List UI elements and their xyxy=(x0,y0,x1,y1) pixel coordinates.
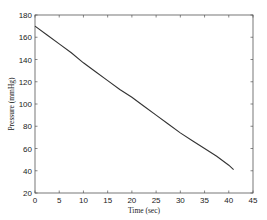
x-tick-label: 35 xyxy=(200,196,209,205)
x-tick-label: 10 xyxy=(79,196,88,205)
y-tick-label: 140 xyxy=(19,56,33,65)
y-tick-label: 160 xyxy=(19,33,33,42)
x-axis-label: Time (sec) xyxy=(128,206,161,215)
x-tick-label: 45 xyxy=(249,196,258,205)
plot-axes xyxy=(35,15,253,193)
x-tick-label: 25 xyxy=(152,196,161,205)
x-tick-label: 5 xyxy=(57,196,62,205)
y-tick-label: 100 xyxy=(19,100,33,109)
x-tick-label: 30 xyxy=(176,196,185,205)
x-axis-ticks: 051015202530354045 xyxy=(33,15,258,205)
x-tick-label: 15 xyxy=(103,196,112,205)
y-tick-label: 180 xyxy=(19,11,33,20)
x-tick-label: 0 xyxy=(33,196,38,205)
x-tick-label: 40 xyxy=(224,196,233,205)
plot-frame xyxy=(35,15,253,193)
y-tick-label: 120 xyxy=(19,78,33,87)
y-tick-label: 20 xyxy=(23,189,32,198)
y-tick-label: 40 xyxy=(23,167,32,176)
y-axis-ticks: 20406080100120140160180 xyxy=(19,11,253,198)
pressure-time-chart: 051015202530354045 204060801001201401601… xyxy=(0,0,267,220)
pressure-line xyxy=(35,26,234,170)
y-axis-label: Pressure (mmHg) xyxy=(7,77,16,131)
y-tick-label: 60 xyxy=(23,145,32,154)
y-tick-label: 80 xyxy=(23,122,32,131)
x-tick-label: 20 xyxy=(127,196,136,205)
